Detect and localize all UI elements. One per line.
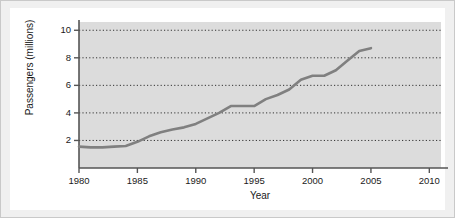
x-axis-title: Year [79,190,441,201]
x-tick-label: 2010 [409,175,449,186]
y-tick-label: 6 [35,79,71,90]
x-tick-label: 1995 [234,175,274,186]
x-tick-label: 1990 [176,175,216,186]
y-axis-title: Passengers (millions) [24,8,35,128]
x-tick-label: 1980 [59,175,99,186]
x-tick-label: 2000 [293,175,333,186]
chart-figure: 246810 1980198519901995200020052010 Pass… [0,0,455,218]
gridlines [79,30,441,140]
y-tick-label: 10 [35,24,71,35]
y-tick-label: 4 [35,107,71,118]
y-tick-label: 2 [35,134,71,145]
x-tick-label: 2005 [351,175,391,186]
x-axis-ticks [79,168,429,173]
x-tick-label: 1985 [117,175,157,186]
data-series-line [79,48,371,147]
y-tick-label: 8 [35,52,71,63]
